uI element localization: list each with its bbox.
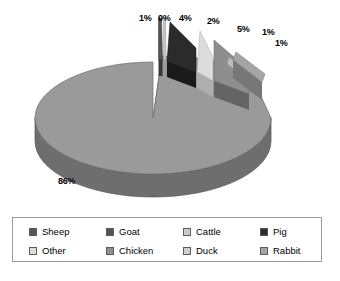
legend-swatch-icon [183, 228, 191, 236]
legend-label: Goat [119, 227, 140, 237]
pie-plot-area: 1% 0% 4% 2% 5% 1% 1% 86% [0, 0, 340, 205]
legend-label: Duck [196, 246, 218, 256]
legend-label: Chicken [119, 246, 153, 256]
pie-chart-figure: 1% 0% 4% 2% 5% 1% 1% 86% Sheep Goat Catt… [0, 0, 340, 281]
legend-item-goat[interactable]: Goat [90, 222, 167, 242]
legend-label: Rabbit [273, 246, 300, 256]
slice-goat-side [159, 60, 163, 76]
slice-cattle-side [164, 60, 167, 76]
legend-item-duck[interactable]: Duck [167, 241, 244, 261]
legend-item-sheep[interactable]: Sheep [13, 222, 90, 242]
slice-other [197, 31, 213, 97]
legend-swatch-icon [29, 228, 37, 236]
legend-label: Sheep [42, 227, 69, 237]
slice-cattle-top [164, 18, 167, 60]
legend-label: Other [42, 246, 66, 256]
pie-svg [0, 0, 340, 205]
legend-item-cattle[interactable]: Cattle [167, 222, 244, 242]
pie-label-cattle: 0% [158, 13, 171, 23]
slice-goat [159, 18, 163, 76]
pie-label-pig: 4% [179, 13, 192, 23]
chart-legend: Sheep Goat Cattle Pig Other Chicke [12, 217, 322, 262]
legend-swatch-icon [183, 247, 191, 255]
legend-item-other[interactable]: Other [13, 241, 90, 261]
legend-item-pig[interactable]: Pig [244, 222, 321, 242]
legend-swatch-icon [260, 228, 268, 236]
pie-label-rabbit: 1% [275, 38, 288, 48]
legend-swatch-icon [260, 247, 268, 255]
legend-label: Cattle [196, 227, 221, 237]
pie-label-other: 2% [207, 16, 220, 26]
slice-other-top [197, 31, 213, 81]
slice-goat-top [159, 18, 163, 60]
legend-swatch-icon [29, 247, 37, 255]
slice-pig [167, 22, 196, 88]
pie-label-goat: 1% [139, 13, 152, 23]
pie-label-sheep: 86% [58, 176, 75, 186]
slice-cattle [164, 18, 167, 76]
legend-item-chicken[interactable]: Chicken [90, 241, 167, 261]
legend-swatch-icon [106, 228, 114, 236]
legend-row: Sheep Goat Cattle Pig [13, 222, 321, 242]
legend-label: Pig [273, 227, 287, 237]
pie-label-duck: 1% [262, 27, 275, 37]
legend-row: Other Chicken Duck Rabbit [13, 241, 321, 261]
legend-item-rabbit[interactable]: Rabbit [244, 241, 321, 261]
legend-swatch-icon [106, 247, 114, 255]
pie-label-chicken: 5% [237, 24, 250, 34]
